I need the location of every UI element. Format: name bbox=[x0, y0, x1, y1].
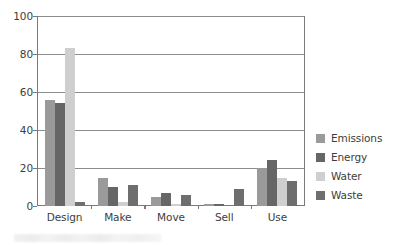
y-tick-label-20: 20 bbox=[3, 163, 33, 174]
bar-make-water bbox=[118, 202, 128, 206]
y-tick-label-100: 100 bbox=[3, 11, 33, 22]
bar-group-design bbox=[45, 16, 85, 206]
bar-use-emissions bbox=[257, 168, 267, 206]
legend-swatch-energy bbox=[316, 153, 325, 162]
bar-use-waste bbox=[287, 181, 297, 206]
y-tick-label-40: 40 bbox=[3, 125, 33, 136]
legend-item-emissions: Emissions bbox=[316, 129, 382, 148]
y-tick-mark-100 bbox=[33, 16, 37, 17]
legend-item-energy: Energy bbox=[316, 148, 382, 167]
y-axis: 020406080100 bbox=[0, 16, 33, 206]
bar-make-emissions bbox=[98, 178, 108, 207]
bar-move-water bbox=[171, 204, 181, 206]
bar-group-use bbox=[257, 16, 297, 206]
bar-design-waste bbox=[75, 202, 85, 206]
legend-label-water: Water bbox=[331, 171, 362, 182]
bar-move-emissions bbox=[151, 197, 161, 207]
x-tick-label-use: Use bbox=[251, 211, 304, 223]
legend-swatch-emissions bbox=[316, 134, 325, 143]
legend-label-emissions: Emissions bbox=[331, 133, 382, 144]
legend-label-energy: Energy bbox=[331, 152, 367, 163]
legend-item-water: Water bbox=[316, 167, 382, 186]
x-tick-mark-2 bbox=[198, 205, 199, 209]
y-tick-label-60: 60 bbox=[3, 87, 33, 98]
bar-make-waste bbox=[128, 185, 138, 206]
x-tick-label-make: Make bbox=[91, 211, 144, 223]
y-tick-mark-20 bbox=[33, 168, 37, 169]
legend-swatch-waste bbox=[316, 191, 325, 200]
bar-design-emissions bbox=[45, 100, 55, 206]
y-tick-mark-0 bbox=[33, 206, 37, 207]
x-tick-label-sell: Sell bbox=[198, 211, 251, 223]
bar-sell-energy bbox=[214, 204, 224, 206]
legend-item-waste: Waste bbox=[316, 186, 382, 205]
bar-move-waste bbox=[181, 195, 191, 206]
bar-design-water bbox=[65, 48, 75, 206]
y-tick-mark-60 bbox=[33, 92, 37, 93]
x-tick-label-design: Design bbox=[38, 211, 91, 223]
bar-sell-waste bbox=[234, 189, 244, 206]
bar-sell-emissions bbox=[204, 204, 214, 206]
bars-layer bbox=[38, 16, 304, 206]
bar-group-make bbox=[98, 16, 138, 206]
legend-swatch-water bbox=[316, 172, 325, 181]
bar-group-move bbox=[151, 16, 191, 206]
y-tick-label-80: 80 bbox=[3, 49, 33, 60]
x-tick-mark-3 bbox=[251, 205, 252, 209]
x-tick-mark-1 bbox=[144, 205, 145, 209]
x-tick-label-move: Move bbox=[144, 211, 197, 223]
y-tick-mark-40 bbox=[33, 130, 37, 131]
bar-use-energy bbox=[267, 160, 277, 206]
bar-make-energy bbox=[108, 187, 118, 206]
caption-artifact bbox=[14, 234, 162, 242]
y-tick-label-0: 0 bbox=[3, 201, 33, 212]
x-tick-mark-0 bbox=[91, 205, 92, 209]
bar-move-energy bbox=[161, 193, 171, 206]
y-tick-mark-80 bbox=[33, 54, 37, 55]
bar-chart-figure: 020406080100 DesignMakeMoveSellUse Emiss… bbox=[0, 0, 397, 245]
legend-label-waste: Waste bbox=[331, 190, 363, 201]
bar-use-water bbox=[277, 178, 287, 207]
bar-group-sell bbox=[204, 16, 244, 206]
chart-legend: EmissionsEnergyWaterWaste bbox=[316, 129, 382, 205]
bar-design-energy bbox=[55, 103, 65, 206]
